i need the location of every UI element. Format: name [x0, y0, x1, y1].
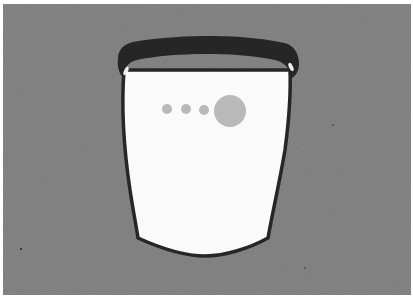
illustration-frame: Container with dots	[0, 0, 413, 298]
dot-small-1	[162, 104, 172, 114]
dot-small-2	[181, 104, 191, 114]
speck	[332, 124, 334, 126]
speck	[304, 267, 306, 269]
speck	[20, 248, 22, 250]
container-body	[123, 70, 290, 256]
container-illustration	[0, 0, 413, 298]
dot-small-3	[199, 105, 209, 115]
dot-large	[214, 95, 246, 127]
